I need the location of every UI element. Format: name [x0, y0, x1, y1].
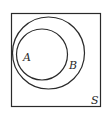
set-b-label: B — [68, 59, 77, 72]
universe-label: S — [91, 94, 99, 107]
set-a-label: A — [22, 51, 31, 64]
venn-diagram: A B S — [0, 0, 110, 119]
